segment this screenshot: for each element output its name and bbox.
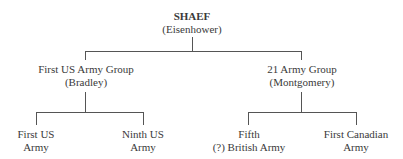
- connector-first-us-army-group-down: [85, 92, 86, 112]
- node-first-us-army-group-commander: (Bradley): [38, 76, 134, 89]
- connector-21-army-group-horizontal: [248, 112, 357, 113]
- node-21-army-group: 21 Army Group (Montgomery): [267, 63, 337, 89]
- node-first-us-army-group-name: First US Army Group: [38, 63, 134, 76]
- node-first-us-army-line1: First US: [18, 128, 55, 141]
- connector-root-horizontal: [85, 51, 302, 52]
- node-21-army-group-commander: (Montgomery): [267, 76, 337, 89]
- connector-first-us-army-group-horizontal: [36, 112, 144, 113]
- connector-to-ninth-us-army: [143, 112, 144, 125]
- node-ninth-us-army: Ninth US Army: [122, 128, 164, 154]
- node-fifth-british-army-line2: (?) British Army: [213, 141, 286, 154]
- node-ninth-us-army-line1: Ninth US: [122, 128, 164, 141]
- node-first-canadian-army-line1: First Canadian: [324, 128, 388, 141]
- connector-to-first-us-army-group: [85, 51, 86, 60]
- node-fifth-british-army-line1: Fifth: [213, 128, 286, 141]
- node-ninth-us-army-line2: Army: [122, 141, 164, 154]
- node-first-canadian-army-line2: Army: [324, 141, 388, 154]
- connector-root-down: [192, 37, 193, 51]
- node-first-us-army-line2: Army: [18, 141, 55, 154]
- node-shaef-commander: (Eisenhower): [162, 23, 221, 36]
- node-first-canadian-army: First Canadian Army: [324, 128, 388, 154]
- node-first-us-army-group: First US Army Group (Bradley): [38, 63, 134, 89]
- connector-21-army-group-down: [301, 92, 302, 112]
- connector-to-first-canadian-army: [356, 112, 357, 125]
- node-first-us-army: First US Army: [18, 128, 55, 154]
- connector-to-first-us-army: [36, 112, 37, 125]
- node-21-army-group-name: 21 Army Group: [267, 63, 337, 76]
- node-shaef-name: SHAEF: [162, 10, 221, 23]
- node-fifth-british-army: Fifth (?) British Army: [213, 128, 286, 154]
- connector-to-21-army-group: [301, 51, 302, 60]
- connector-to-fifth-british-army: [248, 112, 249, 125]
- node-shaef: SHAEF (Eisenhower): [162, 10, 221, 36]
